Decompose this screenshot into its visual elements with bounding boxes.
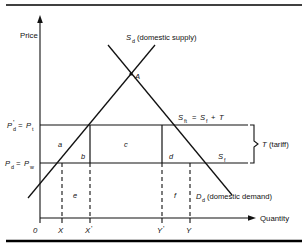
equilibrium-point-label: A <box>134 72 140 81</box>
tariff-diagram-figure: Price Quantity 0 X X ' Y ' Y P ' d = P t… <box>0 0 308 248</box>
tariff-brace-label: T (tariff) <box>262 140 289 149</box>
region-label-a: a <box>58 140 62 149</box>
curve-label-sft-symbol2: S <box>200 113 205 122</box>
curve-label-domestic-supply-sub: d <box>132 38 135 44</box>
tariff-brace-caption: (tariff) <box>269 140 289 149</box>
curve-label-sft-sub: ft <box>184 118 187 124</box>
x-axis-title: Quantity <box>260 214 289 223</box>
price-label-tariff-sub: d <box>13 126 16 132</box>
price-label-world-equals: = <box>16 159 21 168</box>
x-tick-label-x: X <box>57 226 64 235</box>
x-tick-label-0: 0 <box>33 226 38 235</box>
region-label-b: b <box>81 152 85 161</box>
curve-label-domestic-demand-sub: d <box>202 197 205 203</box>
x-tick-label-x-prime-base: X <box>84 226 91 235</box>
curve-label-sft-symbol: S <box>178 113 183 122</box>
curve-label-sf-symbol: S <box>218 152 223 161</box>
curve-label-domestic-supply-symbol: S <box>126 33 131 42</box>
price-label-world-sub2: w <box>29 164 34 170</box>
curve-label-domestic-supply-caption: (domestic supply) <box>137 33 197 42</box>
y-axis-title: Price <box>20 31 38 40</box>
curve-label-domestic-demand-caption: (domestic demand) <box>207 192 272 201</box>
equilibrium-point-marker <box>129 72 132 75</box>
curve-label-sft-equals: = <box>192 113 197 122</box>
price-label-tariff-equals: = <box>18 121 23 130</box>
region-label-e: e <box>73 191 77 200</box>
region-label-c: c <box>124 140 128 149</box>
curve-label-sft-plus: + <box>211 113 216 122</box>
price-label-world-sub: d <box>11 164 14 170</box>
x-tick-label-y: Y <box>186 226 192 235</box>
price-label-tariff: P ' d = P t <box>7 118 34 132</box>
